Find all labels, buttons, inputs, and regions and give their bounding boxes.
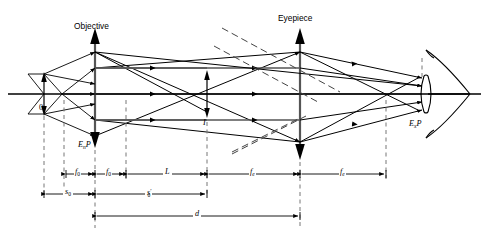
dim-f0-right-subscript: 0 — [108, 171, 111, 177]
dim-label-s0: s0 — [63, 188, 73, 198]
object-label: 0 — [39, 104, 43, 112]
dim-label-s0-prime: s′0 — [145, 188, 152, 199]
eye-diagram — [421, 50, 470, 138]
intermediate-image-label: I — [203, 119, 206, 127]
exit-pupil-P: P — [417, 119, 422, 128]
exit-pupil-label: ExP — [409, 120, 422, 130]
eyepiece-to-exit-pupil-rays — [300, 52, 422, 142]
dim-label-fe-right: fe — [339, 168, 346, 178]
dim-fe-right-subscript: e — [342, 171, 344, 177]
dashed-construction-lines — [214, 28, 340, 168]
dimension-row-1 — [66, 170, 386, 178]
dim-f0-left-subscript: 0 — [77, 171, 80, 177]
entrance-pupil-P: P — [86, 140, 91, 149]
objective-lens — [90, 28, 100, 148]
dim-label-L: L — [163, 168, 172, 176]
dim-s0p-subscript: 0 — [148, 192, 151, 198]
objective-label: Objective — [74, 22, 109, 30]
vertical-reference-lines — [44, 58, 422, 228]
eyepiece-label: Eyepiece — [278, 14, 312, 22]
dim-s0-subscript: 0 — [68, 191, 71, 197]
dim-label-fe-left: fe — [249, 168, 256, 178]
figure-canvas: Objective Eyepiece 0 I EnP ExP f0 f0 L f… — [0, 0, 489, 240]
dim-s0p-prime: ′ — [150, 187, 151, 194]
dim-fe-left-subscript: e — [252, 171, 254, 177]
dim-label-d: d — [193, 210, 201, 218]
entrance-pupil-label: EnP — [78, 141, 91, 151]
dim-label-f0-left: f0 — [74, 168, 81, 178]
dim-label-f0-right: f0 — [105, 168, 112, 178]
